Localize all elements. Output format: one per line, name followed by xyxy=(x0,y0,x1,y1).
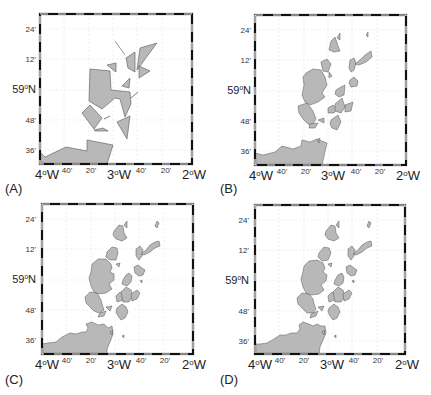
x-tick-4w: 4oW xyxy=(248,357,272,372)
x-tick-3w: 3oW xyxy=(107,357,131,372)
x-tick-2w: 2oW xyxy=(396,168,420,183)
x-tick-3w: 3oW xyxy=(320,357,344,372)
y-tick-24: 24' xyxy=(6,215,36,224)
x-tick-40b: 40' xyxy=(351,167,361,176)
x-tick-2w: 2oW xyxy=(395,357,419,372)
x-tick-40a: 40' xyxy=(62,166,72,175)
x-tick-20a: 20' xyxy=(86,166,96,175)
panel-label-c: (C) xyxy=(5,372,23,387)
y-tick-36: 36' xyxy=(219,337,249,346)
y-tick-24: 24' xyxy=(221,26,251,35)
y-tick-48: 48' xyxy=(6,116,36,125)
x-tick-20a: 20' xyxy=(299,356,309,365)
x-tick-40b: 40' xyxy=(349,356,359,365)
x-tick-2w: 2oW xyxy=(182,167,206,182)
x-tick-20a: 20' xyxy=(86,356,96,365)
y-tick-48: 48' xyxy=(6,306,36,315)
x-tick-40a: 40' xyxy=(277,167,287,176)
y-tick-59n: 59oN xyxy=(209,274,249,286)
x-tick-40b: 40' xyxy=(136,356,146,365)
map-panel-d: 24' 12' 59oN 48' 36' 4oW 40' 20' 3oW 40'… xyxy=(215,195,430,392)
x-tick-20b: 20' xyxy=(160,356,170,365)
y-tick-12: 12' xyxy=(6,245,36,254)
y-tick-24: 24' xyxy=(219,216,249,225)
y-tick-59n: 59oN xyxy=(0,273,36,285)
x-tick-40a: 40' xyxy=(275,356,285,365)
panel-label-b: (B) xyxy=(220,181,237,196)
x-tick-4w: 4oW xyxy=(35,357,59,372)
y-tick-24: 24' xyxy=(6,25,36,34)
y-tick-36: 36' xyxy=(6,336,36,345)
x-tick-20b: 20' xyxy=(373,356,383,365)
map-panel-a: 24' 12' 59oN 48' 36' 4oW 40' 20' 3oW 40'… xyxy=(0,0,215,197)
y-tick-48: 48' xyxy=(219,307,249,316)
x-tick-2w: 2oW xyxy=(182,357,206,372)
x-tick-3w: 3oW xyxy=(321,168,345,183)
panel-label-a: (A) xyxy=(5,181,22,196)
panel-label-d: (D) xyxy=(220,372,238,387)
y-tick-48: 48' xyxy=(221,117,251,126)
x-tick-40a: 40' xyxy=(62,356,72,365)
x-tick-20b: 20' xyxy=(161,166,171,175)
x-tick-20a: 20' xyxy=(301,167,311,176)
x-tick-20b: 20' xyxy=(375,167,385,176)
x-tick-4w: 4oW xyxy=(249,168,273,183)
y-tick-59n: 59oN xyxy=(0,83,36,95)
y-tick-12: 12' xyxy=(6,55,36,64)
y-tick-36: 36' xyxy=(6,146,36,155)
y-tick-12: 12' xyxy=(219,246,249,255)
y-tick-36: 36' xyxy=(221,147,251,156)
y-tick-59n: 59oN xyxy=(211,84,251,96)
map-panel-c: 24' 12' 59oN 48' 36' 4oW 40' 20' 3oW 40'… xyxy=(0,195,215,392)
x-tick-40b: 40' xyxy=(136,166,146,175)
map-panel-b: 24' 12' 59oN 48' 36' 4oW 40' 20' 3oW 40'… xyxy=(215,0,430,197)
x-tick-4w: 4oW xyxy=(35,167,59,182)
y-tick-12: 12' xyxy=(221,56,251,65)
x-tick-3w: 3oW xyxy=(107,167,131,182)
